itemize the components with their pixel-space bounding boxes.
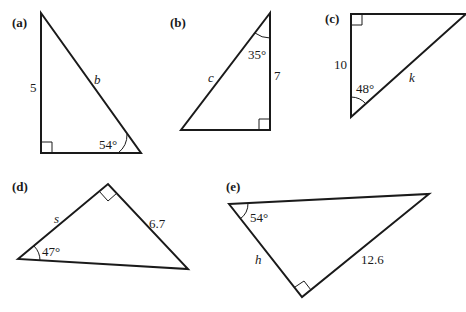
triangle-e: (e) 54° h 12.6 — [226, 179, 429, 297]
angle-arc-d — [34, 246, 40, 261]
right-angle-marker-a — [41, 142, 52, 153]
right-angle-marker-c — [351, 14, 362, 25]
angle-label-c: 48° — [356, 81, 374, 96]
angle-label-e: 54° — [250, 210, 268, 225]
angle-arc-a — [118, 134, 127, 153]
unknown-label-e: h — [255, 252, 262, 267]
side-label-b: 7 — [274, 68, 281, 83]
triangle-a: (a) 5 b 54° — [12, 13, 141, 153]
side-label-c: 10 — [334, 57, 347, 72]
right-triangle-exercises-figure: (a) 5 b 54° (b) 35° 7 c (c) 10 k 48° (d)… — [0, 0, 466, 312]
unknown-label-a: b — [94, 72, 101, 87]
triangle-c: (c) 10 k 48° — [325, 11, 466, 117]
part-label-b: (b) — [170, 15, 186, 30]
right-angle-marker-d — [99, 191, 117, 201]
angle-label-b: 35° — [248, 47, 266, 62]
unknown-label-d: s — [54, 211, 59, 226]
part-label-e: (e) — [226, 179, 240, 194]
side-label-e: 12.6 — [361, 252, 384, 267]
right-angle-marker-e — [295, 281, 311, 290]
side-label-a: 5 — [30, 80, 37, 95]
triangle-c-shape — [351, 14, 466, 117]
unknown-label-c: k — [409, 70, 415, 85]
triangle-a-shape — [41, 13, 141, 153]
triangle-b-shape — [181, 13, 270, 130]
part-label-a: (a) — [12, 15, 27, 30]
angle-arc-b — [255, 33, 270, 38]
unknown-label-b: c — [208, 70, 214, 85]
right-angle-marker-b — [259, 119, 270, 130]
angle-arc-e — [240, 203, 248, 219]
angle-arc-c — [351, 97, 366, 104]
triangle-d: (d) s 6.7 47° — [12, 179, 188, 269]
triangle-b: (b) 35° 7 c — [170, 13, 281, 130]
part-label-d: (d) — [12, 179, 28, 194]
part-label-c: (c) — [325, 11, 339, 26]
side-label-d: 6.7 — [149, 216, 166, 231]
angle-label-d: 47° — [42, 244, 60, 259]
angle-label-a: 54° — [99, 137, 117, 152]
